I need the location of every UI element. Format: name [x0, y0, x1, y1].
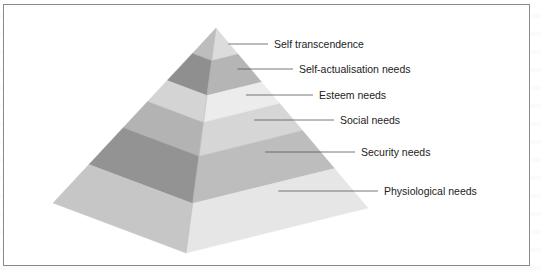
label-security-needs: Security needs	[361, 146, 430, 158]
label-self-transcendence: Self transcendence	[274, 38, 364, 50]
label-esteem-needs: Esteem needs	[319, 89, 386, 101]
label-physiological-needs: Physiological needs	[384, 185, 477, 197]
pyramid-layers	[53, 28, 368, 253]
maslow-pyramid: Self transcendence Self-actualisation ne…	[0, 0, 541, 270]
label-social-needs: Social needs	[340, 114, 400, 126]
label-self-actualisation-needs: Self-actualisation needs	[299, 63, 411, 75]
